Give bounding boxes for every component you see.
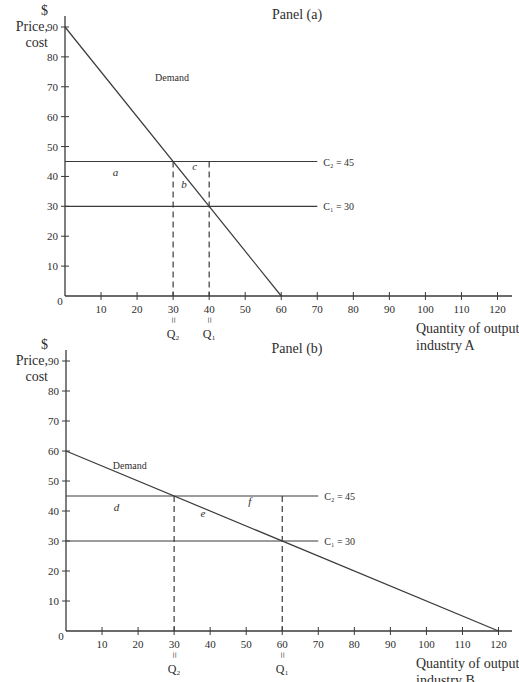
x-tick-label: 110 xyxy=(453,303,470,315)
x-tick-label: 20 xyxy=(133,638,145,650)
cost-line-label: C₂ = 45 xyxy=(323,157,354,168)
y-axis-label: cost xyxy=(25,369,48,384)
x-axis-label: Quantity of output xyxy=(416,656,519,671)
y-tick-label: 40 xyxy=(48,505,60,517)
x-tick-label: 50 xyxy=(240,303,252,315)
y-tick-label: 30 xyxy=(48,535,60,547)
y-tick-label: 10 xyxy=(47,260,59,272)
y-axis-unit: $ xyxy=(41,337,48,352)
x-tick-label: 60 xyxy=(276,303,288,315)
x-tick-label: 60 xyxy=(277,638,289,650)
y-tick-label: 50 xyxy=(48,475,60,487)
y-axis-label: Price, xyxy=(16,353,48,368)
x-tick-label: 70 xyxy=(312,303,324,315)
x-tick-label: 50 xyxy=(241,638,253,650)
x-tick-label: 90 xyxy=(384,303,396,315)
equals-mark: = xyxy=(204,317,216,323)
cost-line-label: C₂ = 45 xyxy=(324,491,355,502)
panel-title: Panel (b) xyxy=(272,341,323,357)
y-tick-label: 70 xyxy=(48,415,60,427)
region-label-a: a xyxy=(113,166,119,178)
cost-line-label: C₁ = 30 xyxy=(323,201,354,212)
y-tick-label: 60 xyxy=(47,111,59,123)
panel-b: Panel (b)$Price,cost10203040506070809010… xyxy=(16,337,519,682)
x-tick-label: 120 xyxy=(490,638,507,650)
panel-title: Panel (a) xyxy=(272,7,322,23)
x-tick-label: 10 xyxy=(96,303,108,315)
y-tick-label: 80 xyxy=(48,385,60,397)
y-axis-label: Price, xyxy=(16,19,48,34)
y-tick-label: 70 xyxy=(47,81,59,93)
equals-mark: = xyxy=(168,317,180,323)
y-axis-label: cost xyxy=(25,35,48,50)
region-label-d: d xyxy=(114,501,120,513)
figure: Panel (a)$Price,cost10203040506070809010… xyxy=(0,0,519,682)
y-axis-unit: $ xyxy=(41,3,48,18)
demand-label: Demand xyxy=(155,72,189,83)
region-label-f: f xyxy=(248,495,253,507)
quantity-label-q2: Q₂ xyxy=(168,662,181,676)
equals-mark: = xyxy=(277,652,289,658)
x-tick-label: 10 xyxy=(97,638,109,650)
y-tick-label: 60 xyxy=(48,445,60,457)
x-tick-label: 30 xyxy=(169,638,181,650)
cost-line-label: C₁ = 30 xyxy=(324,536,355,547)
y-tick-label: 10 xyxy=(48,595,60,607)
x-tick-label: 40 xyxy=(204,303,216,315)
x-tick-label: 30 xyxy=(168,303,180,315)
y-tick-label: 40 xyxy=(47,170,59,182)
equals-mark: = xyxy=(169,652,181,658)
x-tick-label: 110 xyxy=(454,638,471,650)
x-tick-label: 70 xyxy=(313,638,325,650)
y-tick-label: 80 xyxy=(47,51,59,63)
y-tick-label: 20 xyxy=(48,565,60,577)
x-tick-label: 20 xyxy=(132,303,144,315)
x-axis-label: industry B xyxy=(416,673,475,682)
x-tick-label: 40 xyxy=(205,638,217,650)
y-tick-label: 30 xyxy=(47,200,59,212)
region-label-b: b xyxy=(181,178,187,190)
y-tick-label: 50 xyxy=(47,141,59,153)
panel-a: Panel (a)$Price,cost10203040506070809010… xyxy=(16,3,519,353)
x-tick-label: 80 xyxy=(348,303,360,315)
x-tick-label: 100 xyxy=(418,638,435,650)
x-tick-label: 100 xyxy=(417,303,434,315)
y-tick-label: 90 xyxy=(47,21,59,33)
x-tick-label: 80 xyxy=(349,638,361,650)
quantity-label-q2: Q₂ xyxy=(167,327,180,341)
quantity-label-q1: Q₁ xyxy=(276,662,289,676)
y-tick-label: 20 xyxy=(47,230,59,242)
demand-label: Demand xyxy=(113,460,147,471)
x-tick-label: 90 xyxy=(385,638,397,650)
quantity-label-q1: Q₁ xyxy=(203,327,216,341)
y-tick-label: 90 xyxy=(48,355,60,367)
region-label-e: e xyxy=(201,507,206,519)
x-tick-label: 120 xyxy=(489,303,506,315)
chart-canvas: Panel (a)$Price,cost10203040506070809010… xyxy=(0,0,519,682)
x-axis-label: Quantity of output xyxy=(416,321,519,336)
region-label-c: c xyxy=(192,160,197,172)
origin-label: 0 xyxy=(58,630,64,642)
origin-label: 0 xyxy=(57,295,63,307)
x-axis-label: industry A xyxy=(416,338,476,353)
